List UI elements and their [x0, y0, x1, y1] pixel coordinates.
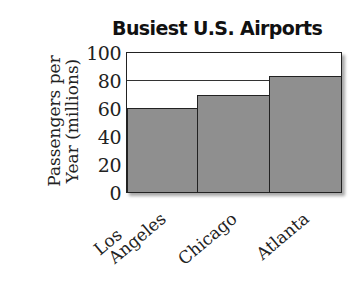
- x-label-atlanta: Atlanta: [252, 208, 313, 263]
- y-tick-80: 80: [98, 72, 121, 91]
- y-tick-0: 0: [109, 184, 121, 203]
- y-tick-60: 60: [98, 100, 121, 119]
- bar-chicago: [197, 95, 270, 192]
- y-tick-20: 20: [98, 156, 121, 175]
- y-axis-label-line-2: Year (millions): [63, 55, 81, 187]
- y-axis-label-line-1: Passengers per: [45, 55, 63, 187]
- plot-area: [126, 52, 342, 193]
- x-label-chicago: Chicago: [174, 208, 241, 268]
- y-tick-100: 100: [86, 44, 121, 63]
- bar-atlanta: [269, 76, 342, 192]
- bar-los-angeles: [127, 108, 199, 192]
- y-axis-label: Passengers per Year (millions): [45, 55, 81, 187]
- chart-title: Busiest U.S. Airports: [112, 17, 322, 39]
- y-tick-40: 40: [98, 128, 121, 147]
